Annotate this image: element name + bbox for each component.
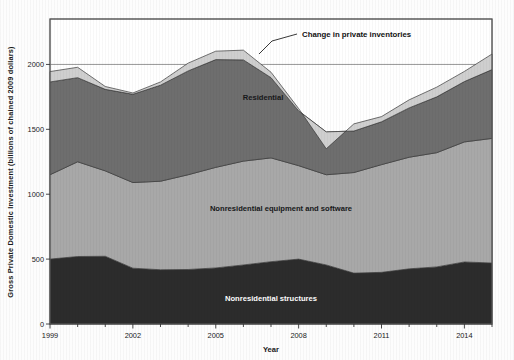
x-tick-label-4: 2011 <box>374 331 390 340</box>
y-tick-label-4: 2000 <box>28 60 44 69</box>
inventories-callout-label: Change in private inventories <box>302 30 412 39</box>
y-axis-title: Gross Private Domestic Investment (billi… <box>6 46 15 298</box>
y-tick-label-1: 500 <box>32 255 44 264</box>
x-tick-label-0: 1999 <box>42 331 58 340</box>
series-label-residential: Residential <box>243 93 284 102</box>
chart-figure: 0500100015002000 19992002200520082011201… <box>0 0 514 360</box>
y-tick-label-3: 1500 <box>28 125 44 134</box>
x-tick-label-5: 2014 <box>456 331 472 340</box>
y-tick-label-0: 0 <box>40 320 44 329</box>
series-label-structures: Nonresidential structures <box>225 294 317 303</box>
x-tick-label-1: 2002 <box>125 331 141 340</box>
stacked-area-chart: 0500100015002000 19992002200520082011201… <box>0 0 514 360</box>
x-tick-label-3: 2008 <box>290 331 306 340</box>
y-tick-label-2: 1000 <box>28 190 44 199</box>
series-label-equipment: Nonresidential equipment and software <box>210 204 352 213</box>
x-tick-label-2: 2005 <box>208 331 224 340</box>
x-axis-title: Year <box>263 345 279 354</box>
